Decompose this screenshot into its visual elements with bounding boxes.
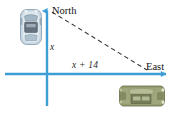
diagram-canvas: North East x x + 14 xyxy=(0,0,172,114)
car-north-icon xyxy=(18,8,44,46)
horizontal-distance-label: x + 14 xyxy=(72,61,98,71)
car-east-icon xyxy=(118,82,166,110)
east-axis-label: East xyxy=(146,62,164,73)
hypotenuse-dashed-line xyxy=(52,12,147,70)
vertical-distance-label: x xyxy=(50,43,54,53)
north-axis-label: North xyxy=(52,6,77,17)
